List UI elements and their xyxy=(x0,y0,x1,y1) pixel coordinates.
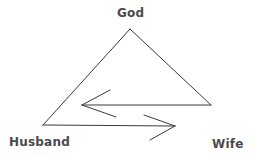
arrowhead-upper-stroke xyxy=(144,115,175,126)
arrow-husband-to-wife xyxy=(43,115,175,140)
arrowhead-upper-stroke xyxy=(82,90,110,105)
arrow-shaft-husband-to-wife xyxy=(43,125,175,126)
edge-god-wife xyxy=(130,29,211,105)
arrowhead-lower-stroke xyxy=(150,126,175,140)
arrow-wife-to-husband xyxy=(82,90,211,117)
arrowhead-lower-stroke xyxy=(82,105,116,117)
relationship-triangle-diagram xyxy=(0,0,258,156)
edge-husband-god xyxy=(43,29,130,125)
